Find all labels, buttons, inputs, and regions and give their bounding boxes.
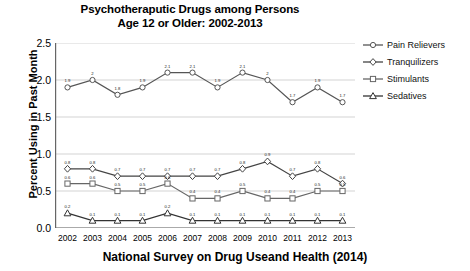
data-point-label: 0.1 <box>265 212 271 217</box>
data-point-marker <box>165 70 170 75</box>
data-point-marker <box>290 100 295 105</box>
data-point-label: 0.4 <box>290 189 296 194</box>
data-point-label: 0.9 <box>265 152 271 157</box>
x-tick-label: 2005 <box>133 233 152 243</box>
chart-title-line-1: Psychotheraputic Drugs among Persons <box>40 2 340 16</box>
data-point-label: 2 <box>91 71 94 76</box>
data-point-label: 2 <box>266 71 269 76</box>
data-point-label: 2.1 <box>190 64 196 69</box>
data-point-marker <box>90 181 95 186</box>
data-point-marker <box>65 181 70 186</box>
data-point-marker <box>139 173 145 180</box>
data-point-marker <box>370 42 375 47</box>
data-point-label: 0.7 <box>165 167 171 172</box>
data-point-marker <box>64 210 71 216</box>
data-point-label: 1.8 <box>115 86 121 91</box>
data-point-label: 2.1 <box>165 64 171 69</box>
series-line <box>68 161 343 183</box>
chart-source-note: National Survey on Drug Useand Health (2… <box>30 250 440 264</box>
legend-item-sedatives[interactable]: Sedatives <box>362 87 468 104</box>
y-tick-label: 2.5 <box>36 37 51 49</box>
data-point-marker <box>190 196 195 201</box>
series-pain-relievers: 1.921.81.92.12.11.92.121.71.91.7 <box>65 64 346 105</box>
data-point-label: 0.4 <box>215 189 221 194</box>
square-marker-icon <box>362 74 384 84</box>
circle-marker-icon <box>362 40 384 50</box>
data-point-label: 0.1 <box>115 212 121 217</box>
data-point-marker <box>240 70 245 75</box>
series-sedatives: 0.20.10.10.10.20.10.10.10.10.10.10.1 <box>64 204 346 223</box>
data-point-marker <box>64 165 70 172</box>
data-point-label: 0.4 <box>190 189 196 194</box>
x-tick-label: 2006 <box>158 233 177 243</box>
data-point-label: 0.5 <box>140 182 146 187</box>
triangle-marker-icon <box>362 91 384 101</box>
data-point-marker <box>315 188 320 193</box>
data-point-marker <box>89 165 95 172</box>
data-point-marker <box>265 196 270 201</box>
y-tick-label: 0.5 <box>36 185 51 197</box>
diamond-marker-icon <box>362 57 384 67</box>
legend-item-tranquilizers[interactable]: Tranquilizers <box>362 53 468 70</box>
data-point-label: 0.4 <box>265 189 271 194</box>
data-point-label: 1.7 <box>340 93 346 98</box>
data-point-marker <box>240 188 245 193</box>
x-tick-label: 2009 <box>233 233 252 243</box>
data-point-marker <box>140 188 145 193</box>
data-point-label: 0.8 <box>90 160 96 165</box>
data-point-marker <box>115 92 120 97</box>
legend-label: Stimulants <box>387 74 429 84</box>
data-point-label: 0.1 <box>190 212 196 217</box>
data-point-marker <box>239 165 245 172</box>
data-point-marker <box>340 100 345 105</box>
series-tranquilizers: 0.80.80.70.70.70.70.70.80.90.70.80.6 <box>64 152 346 187</box>
data-point-marker <box>215 85 220 90</box>
data-point-label: 0.1 <box>290 212 296 217</box>
x-tick-label: 2013 <box>333 233 352 243</box>
data-point-label: 1.7 <box>290 93 296 98</box>
series-line <box>68 73 343 103</box>
series-stimulants: 0.60.60.50.50.60.40.40.50.40.40.50.5 <box>65 175 346 201</box>
chart-container: Psychotheraputic Drugs among Persons Age… <box>0 0 470 271</box>
y-tick-label: 2.0 <box>36 74 51 86</box>
data-point-marker <box>264 158 270 165</box>
x-tick-label: 2002 <box>58 233 77 243</box>
data-point-marker <box>314 165 320 172</box>
data-point-label: 0.7 <box>190 167 196 172</box>
data-point-marker <box>189 173 195 180</box>
data-point-label: 0.6 <box>65 175 71 180</box>
legend-label: Tranquilizers <box>387 57 438 67</box>
data-point-marker <box>115 188 120 193</box>
series-line <box>68 213 343 220</box>
legend-item-pain-relievers[interactable]: Pain Relievers <box>362 36 468 53</box>
data-point-marker <box>289 173 295 180</box>
data-point-marker <box>315 85 320 90</box>
y-tick-label: 0.0 <box>36 222 51 234</box>
data-point-label: 0.1 <box>315 212 321 217</box>
data-point-label: 0.5 <box>115 182 121 187</box>
data-point-label: 0.1 <box>90 212 96 217</box>
legend-item-stimulants[interactable]: Stimulants <box>362 70 468 87</box>
data-point-marker <box>165 181 170 186</box>
data-point-label: 1.9 <box>315 78 321 83</box>
y-tick-label: 1.5 <box>36 111 51 123</box>
data-point-label: 0.5 <box>315 182 321 187</box>
data-point-marker <box>65 85 70 90</box>
chart-legend: Pain RelieversTranquilizersStimulantsSed… <box>362 36 468 104</box>
data-point-marker <box>214 173 220 180</box>
data-point-label: 0.7 <box>115 167 121 172</box>
data-point-label: 0.5 <box>340 182 346 187</box>
data-point-marker <box>190 70 195 75</box>
x-tick-label: 2004 <box>108 233 127 243</box>
data-point-label: 0.2 <box>165 204 171 209</box>
data-point-marker <box>140 85 145 90</box>
data-point-label: 0.8 <box>315 160 321 165</box>
data-point-marker <box>215 196 220 201</box>
data-point-label: 0.7 <box>140 167 146 172</box>
plot-svg: 1.921.81.92.12.11.92.121.71.91.70.80.80.… <box>55 43 355 228</box>
x-tick-label: 2008 <box>208 233 227 243</box>
data-point-label: 0.6 <box>165 175 171 180</box>
data-point-label: 0.8 <box>65 160 71 165</box>
legend-label: Sedatives <box>387 91 427 101</box>
x-tick-label: 2011 <box>283 233 301 243</box>
